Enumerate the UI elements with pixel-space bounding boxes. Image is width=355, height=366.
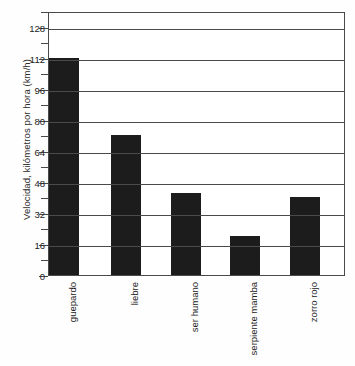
x-label-zorro-rojo: zorro rojo <box>308 282 319 322</box>
gridline <box>49 215 344 216</box>
y-tick-minor <box>41 12 48 13</box>
x-label-ser-humano: ser humano <box>189 282 200 332</box>
bar-serpiente-mamba <box>230 236 260 275</box>
y-tick-label: 128 <box>15 22 45 33</box>
x-label-guepardo: guepardo <box>67 282 78 322</box>
gridline <box>49 29 344 30</box>
bar-chart: Velocidad, kilómetros por hora (km/h) 01… <box>0 0 355 366</box>
y-tick-label: 0 <box>15 271 45 282</box>
x-axis-category-labels: guepardoliebreser humanoserpiente mambaz… <box>48 276 345 366</box>
x-label-liebre: liebre <box>129 282 140 305</box>
y-tick-label: 16 <box>15 239 45 250</box>
bar-ser-humano <box>171 193 201 275</box>
y-tick-minor <box>41 167 48 168</box>
gridline <box>49 122 344 123</box>
bar-zorro-rojo <box>290 197 320 275</box>
x-label-serpiente-mamba: serpiente mamba <box>248 282 259 355</box>
bar-liebre <box>111 135 141 275</box>
y-tick-label: 80 <box>15 115 45 126</box>
bars-layer <box>49 13 344 275</box>
gridline <box>49 60 344 61</box>
gridline <box>49 246 344 247</box>
y-tick-minor <box>41 260 48 261</box>
y-tick-minor <box>41 229 48 230</box>
gridline <box>49 91 344 92</box>
y-tick-label: 32 <box>15 208 45 219</box>
y-tick-minor <box>41 43 48 44</box>
y-tick-label: 96 <box>15 84 45 95</box>
y-tick-label: 64 <box>15 146 45 157</box>
y-tick-label: 48 <box>15 177 45 188</box>
y-tick-minor <box>41 136 48 137</box>
y-tick-minor <box>41 105 48 106</box>
gridline <box>49 184 344 185</box>
y-tick-minor <box>41 74 48 75</box>
y-tick-label: 112 <box>15 53 45 64</box>
plot-area <box>48 12 345 276</box>
y-tick-minor <box>41 198 48 199</box>
gridline <box>49 153 344 154</box>
